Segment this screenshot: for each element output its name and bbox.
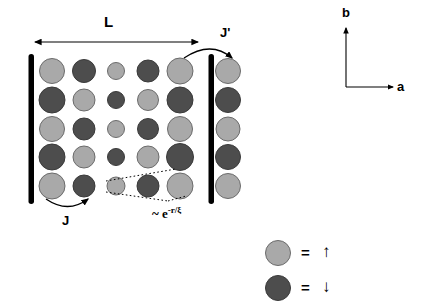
spin-r5c5	[167, 173, 193, 199]
spin-r5c1	[39, 173, 65, 199]
correlation-decay-base: ~ e	[152, 206, 168, 221]
spin-r5c2	[73, 175, 95, 197]
spin-r2c5	[167, 87, 193, 113]
spin-down-arrow-icon: ↓	[322, 278, 331, 295]
legend-spin-up-circle	[266, 241, 291, 266]
j-prime-label: J'	[220, 26, 230, 39]
spin-r5c4	[137, 175, 159, 197]
spin-r1c1	[40, 59, 65, 84]
spin-r5c6	[216, 174, 241, 199]
legend-up-equals: =	[301, 245, 310, 260]
spin-r2c4	[138, 90, 159, 111]
spin-r2c1	[39, 87, 65, 113]
j-prime-coupling-arc	[184, 49, 232, 58]
spin-r3c1	[40, 117, 65, 142]
spin-r1c6	[216, 59, 241, 84]
spin-r1c5	[167, 58, 193, 84]
correlation-decay-label: ~ e-r/ξ	[152, 206, 181, 220]
spin-r2c3	[108, 92, 125, 109]
correlation-decay-exponent: -r/ξ	[168, 205, 182, 215]
spin-r2c6	[216, 88, 241, 113]
spin-r3c6	[216, 117, 240, 141]
spin-r2c2	[73, 89, 95, 111]
spin-r4c4	[137, 146, 159, 168]
spin-r3c4	[138, 119, 159, 140]
spin-r3c2	[73, 118, 95, 140]
j-label: J	[62, 214, 69, 227]
spin-r3c5	[168, 117, 193, 142]
spin-r1c2	[73, 60, 96, 83]
spin-r1c3	[108, 63, 125, 80]
legend-down-equals: =	[301, 280, 310, 295]
length-label: L	[104, 14, 113, 29]
crystal-axes	[346, 28, 393, 87]
spin-r4c1	[39, 144, 65, 170]
axis-label-a: a	[397, 80, 404, 93]
spin-up-arrow-icon: ↑	[322, 243, 331, 260]
left-chain-bar	[29, 54, 35, 204]
right-chain-bar	[209, 54, 215, 204]
j-coupling-arc	[46, 199, 88, 207]
axis-label-b: b	[342, 6, 350, 19]
spin-r4c3	[108, 149, 125, 166]
spin-r4c2	[73, 146, 95, 168]
legend-spin-down-circle	[266, 276, 291, 301]
spin-r4c6	[216, 145, 241, 170]
spin-r5c3	[107, 177, 125, 195]
spin-ladder-figure: L J' J ~ e-r/ξ b a = ↑ = ↓	[0, 0, 429, 307]
spin-r4c5	[167, 144, 194, 171]
figure-canvas	[0, 0, 429, 307]
spin-r3c3	[108, 121, 125, 138]
spin-r1c4	[137, 60, 159, 82]
